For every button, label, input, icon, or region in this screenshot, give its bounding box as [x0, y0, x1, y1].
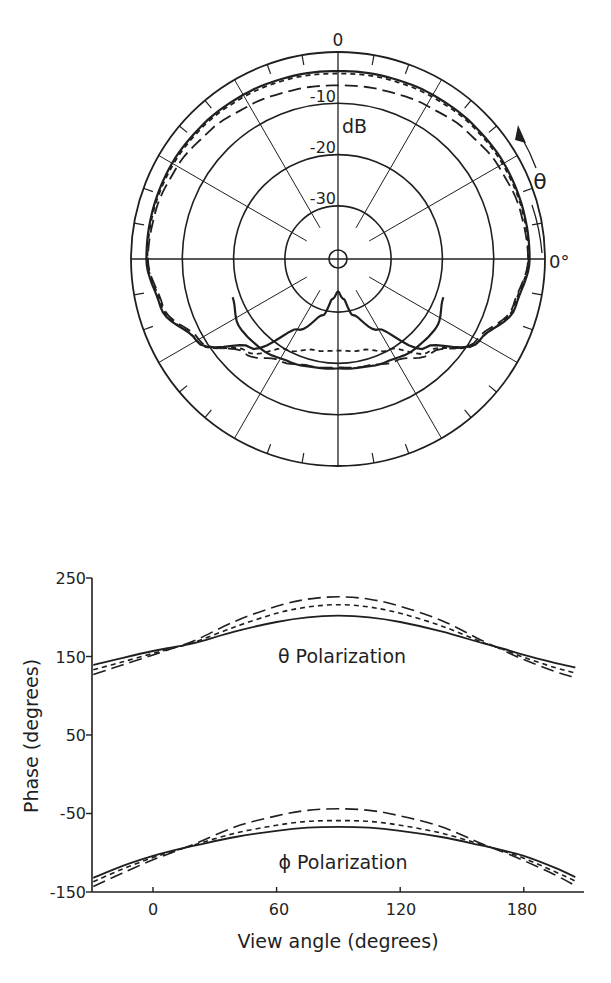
- xtick-label-120: 120: [386, 900, 417, 919]
- theta-polarization-annotation: θ Polarization: [278, 645, 406, 667]
- ytick-label-minus-150: -150: [50, 883, 86, 902]
- phi-polarization-annotation: ϕ Polarization: [278, 851, 407, 873]
- xtick-label-0: 0: [148, 900, 158, 919]
- phase-axes: [86, 578, 584, 892]
- ytick-label-250: 250: [55, 569, 86, 588]
- y-axis-label: Phase (degrees): [20, 659, 42, 813]
- ytick-label-minus-50: -50: [60, 804, 86, 823]
- phase-curves: [93, 597, 575, 887]
- xtick-label-180: 180: [507, 900, 538, 919]
- phase-curve-ϕ-long-dash: [93, 809, 575, 887]
- xtick-label-60: 60: [269, 900, 289, 919]
- phase-vs-view-angle-chart: 250 150 50 -50 -150 0 60 120 180 View an…: [0, 0, 611, 983]
- ytick-label-150: 150: [55, 648, 86, 667]
- ytick-label-50: 50: [66, 726, 86, 745]
- x-axis-label: View angle (degrees): [237, 930, 438, 952]
